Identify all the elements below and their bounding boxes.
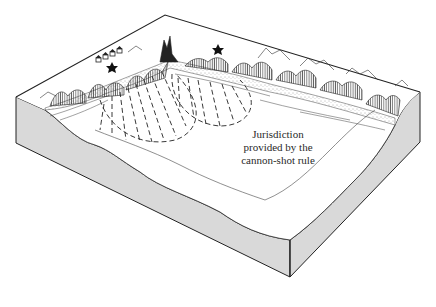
annotation-line-2: provided by the — [243, 141, 312, 153]
annotation-line-3: cannon-shot rule — [241, 154, 315, 166]
coastal-block-diagram: Jurisdiction provided by the cannon-shot… — [0, 0, 436, 307]
annotation-line-1: Jurisdiction — [252, 128, 304, 140]
